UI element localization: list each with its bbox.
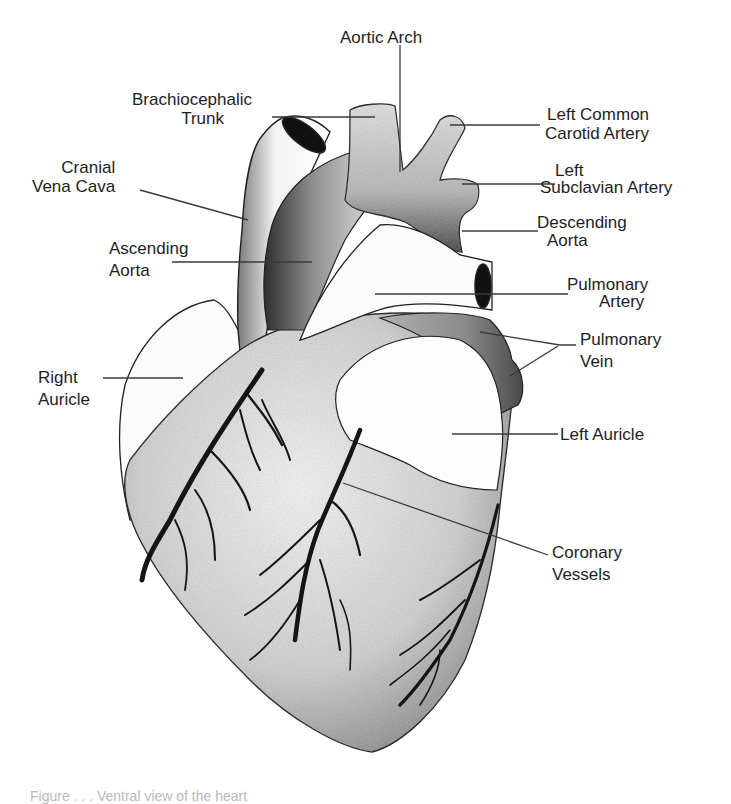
label-aortic-arch: Aortic Arch [340,28,422,47]
leader-cranial-vena-cava [140,190,248,220]
label-coronary-vessels: Coronary Vessels [552,541,622,584]
label-left-common-carotid-artery: Left Common Carotid Artery [545,105,649,143]
label-pulmonary-artery: Pulmonary Artery [567,277,648,311]
label-pulmonary-vein: Pulmonary Vein [580,328,661,371]
label-left-subclavian-artery: Left Subclavian Artery [540,163,672,197]
leader-pulmonary-vein-2 [510,346,558,376]
label-cranial-vena-cava: Cranial Vena Cava [32,158,115,196]
figure-caption: Figure . . . Ventral view of the heart [30,788,247,804]
label-ascending-aorta: Ascending Aorta [109,237,188,280]
label-descending-aorta: Descending Aorta [537,215,627,250]
label-right-auricle: Right Auricle [38,366,90,409]
label-brachiocephalic-trunk: Brachiocephalic Trunk [132,90,252,128]
label-left-auricle: Left Auricle [560,425,644,444]
